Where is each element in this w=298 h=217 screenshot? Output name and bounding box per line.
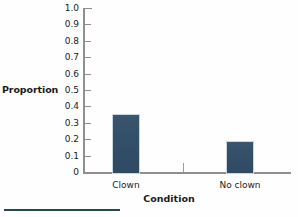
y-tick-label: 0.4 (57, 101, 79, 111)
y-axis-title: Proportion (2, 84, 64, 95)
y-tick-label: 0.1 (57, 151, 79, 161)
y-tick-mark (85, 57, 91, 58)
y-tick-mark (85, 106, 91, 107)
y-tick-mark (85, 156, 91, 157)
y-tick-label: 0.3 (57, 118, 79, 128)
y-tick-mark (85, 24, 91, 25)
category-label-no-clown: No clown (219, 180, 260, 190)
y-tick-label: 0 (57, 167, 79, 177)
category-label-clown: Clown (112, 180, 139, 190)
y-tick-label: 0.9 (57, 19, 79, 29)
plot-area: 1.0 0.9 0.8 0.7 0.6 0.5 0.4 0.3 (83, 8, 291, 172)
y-tick-mark (85, 139, 91, 140)
y-tick-label: 0.7 (57, 52, 79, 62)
y-tick-mark (85, 74, 91, 75)
bar-chart-figure: Proportion 1.0 0.9 0.8 0.7 0.6 0.5 (0, 0, 298, 217)
bar-clown (112, 114, 140, 174)
x-axis-title: Condition (0, 193, 298, 204)
bar-no-clown (226, 141, 254, 174)
footer-rule (4, 209, 120, 211)
y-tick-label: 0.5 (57, 85, 79, 95)
y-tick-mark (85, 8, 92, 9)
y-tick-label: 0.6 (57, 69, 79, 79)
y-tick-label: 1.0 (57, 3, 79, 13)
y-tick-mark (85, 90, 91, 91)
y-tick-mark (85, 41, 91, 42)
y-tick-label: 0.2 (57, 134, 79, 144)
y-tick-mark (85, 123, 91, 124)
y-tick-mark (85, 172, 91, 173)
y-tick-label: 0.8 (57, 36, 79, 46)
x-axis-midpoint-tick (183, 163, 184, 172)
